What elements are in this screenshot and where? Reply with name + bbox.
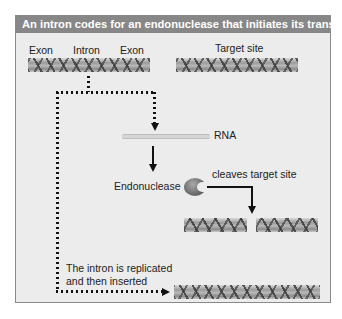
dotted-connector-horizontal — [56, 91, 156, 94]
arrow-down-icon — [151, 123, 159, 131]
rna-strand — [122, 134, 210, 139]
cleaved-target-right-helix — [256, 218, 318, 232]
translation-arrow-shaft — [152, 146, 154, 166]
dotted-connector-intron — [87, 76, 90, 92]
arrow-down-icon — [149, 164, 157, 172]
cleaved-target-left-helix — [184, 218, 247, 232]
target-with-intron-helix — [174, 285, 320, 299]
source-gene-dna-helix — [28, 58, 150, 72]
target-site-dna-helix — [176, 58, 298, 72]
arrow-down-icon — [248, 206, 256, 214]
dotted-connector-left-vertical — [56, 92, 59, 292]
arrow-right-icon — [162, 288, 170, 296]
cleave-arrow-vertical — [251, 186, 253, 208]
insertion-label-line1: The intron is replicated — [66, 262, 172, 274]
endonuclease-label: Endonuclease — [114, 180, 181, 192]
exon-left-label: Exon — [29, 44, 53, 56]
insertion-label-line2: and then inserted — [66, 275, 147, 287]
intron-label: Intron — [73, 44, 100, 56]
diagram-title: An intron codes for an endonuclease that… — [16, 16, 330, 33]
rna-label: RNA — [214, 129, 236, 141]
endonuclease-enzyme-icon — [184, 178, 206, 196]
cleave-arrow-horizontal — [207, 186, 253, 188]
exon-right-label: Exon — [120, 44, 144, 56]
target-site-label: Target site — [215, 42, 263, 54]
dotted-connector-to-rna — [153, 92, 156, 124]
dotted-connector-bottom — [56, 290, 163, 293]
cleaves-target-site-label: cleaves target site — [212, 168, 297, 180]
